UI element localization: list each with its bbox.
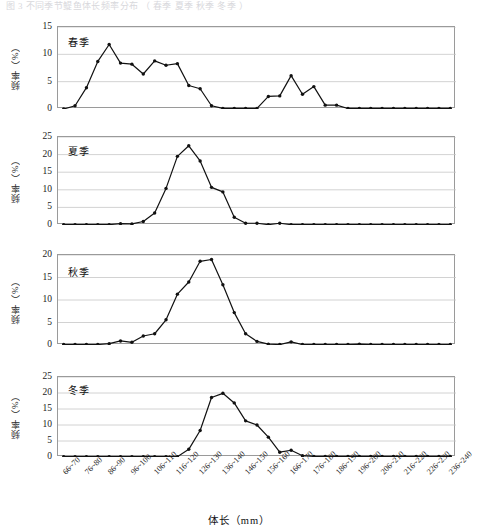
data-point [312,343,315,345]
data-point [392,343,395,345]
panel-spring-ytick-5: 5 [26,76,52,85]
panel-winter-ytick-5: 5 [26,436,52,445]
panel-summer: 频率（%） 0510152025 夏季 [0,124,478,234]
data-point [449,223,452,225]
panel-summer-ytick-10: 10 [26,184,52,193]
data-point [62,343,65,345]
data-point [187,144,190,147]
data-point [358,223,361,225]
data-point [415,223,418,225]
data-point [335,343,338,345]
panel-summer-plot [57,136,455,224]
data-point [221,283,224,286]
data-point [210,186,213,189]
data-point [403,343,406,345]
data-point [187,84,190,87]
series-line [64,260,451,345]
data-point [210,258,213,261]
data-point [335,223,338,225]
panel-spring-season-label: 春季 [68,34,90,49]
data-point [176,292,179,295]
panel-summer-yticks: 0510152025 [22,124,52,234]
data-point [392,223,395,225]
panel-summer-ytick-20: 20 [26,149,52,158]
data-point [267,223,270,225]
data-point [221,107,224,109]
data-point [62,223,65,225]
data-point [62,107,65,109]
panel-autumn-yticks: 05101520 [22,242,52,354]
data-point [358,107,361,109]
data-point [119,61,122,64]
panel-spring-ytick-0: 0 [26,104,52,113]
data-point [210,104,213,107]
data-point [233,107,236,109]
panel-autumn-season-label: 秋季 [68,264,90,279]
panel-spring-plot [57,26,455,108]
data-point [153,455,156,457]
data-point [107,43,110,46]
panel-autumn: 频率（%） 05101520 秋季 [0,242,478,354]
data-point [153,211,156,214]
data-point [403,107,406,109]
data-point [153,332,156,335]
data-point [346,343,349,345]
data-point [278,94,281,97]
panel-spring-series-svg [58,27,456,109]
data-point [437,107,440,109]
seasonal-length-frequency-figure: 频率（%） 051015 春季 频率（%） 0510152025 夏季 频率（%… [0,14,478,530]
data-point [403,223,406,225]
panel-summer-series-svg [58,137,456,225]
data-point [449,107,452,109]
data-point [221,190,224,193]
data-point [369,107,372,109]
panel-winter-ytick-20: 20 [26,388,52,397]
data-point [392,107,395,109]
data-point [289,340,292,343]
data-point [233,401,236,404]
panel-autumn-ytick-10: 10 [26,295,52,304]
data-point [449,343,452,345]
panel-autumn-ytick-15: 15 [26,272,52,281]
data-point [85,455,88,457]
data-point [278,343,281,345]
panel-winter-ytick-0: 0 [26,452,52,461]
data-point [85,223,88,225]
data-point [267,95,270,98]
data-point [380,343,383,345]
data-point [130,62,133,65]
data-point [301,93,304,96]
data-point [380,107,383,109]
data-point [119,222,122,225]
data-point [426,107,429,109]
data-point [73,104,76,107]
data-point [358,342,361,345]
data-point [233,216,236,219]
panel-winter-ytick-25: 25 [26,372,52,381]
data-point [426,223,429,225]
data-point [73,223,76,225]
data-point [62,455,65,457]
data-point [289,74,292,77]
panel-spring-ytick-10: 10 [26,49,52,58]
data-point [278,222,281,225]
panel-autumn-series-svg [58,255,456,345]
data-point [380,223,383,225]
x-axis-title: 体长（mm） [0,512,478,527]
cropped-caption-strip: 图 3 不同季节鳀鱼体长频率分布 （ 春季 夏季 秋季 冬季 ） [6,0,472,12]
data-point [244,419,247,422]
data-point [324,343,327,345]
data-point [267,342,270,345]
data-point [96,60,99,63]
data-point [198,159,201,162]
data-point [415,343,418,345]
data-point [426,343,429,345]
data-point [244,332,247,335]
data-point [437,343,440,345]
panel-summer-season-label: 夏季 [68,143,90,158]
data-point [244,222,247,225]
data-point [176,62,179,65]
data-point [142,72,145,75]
data-point [346,107,349,109]
data-point [198,260,201,263]
